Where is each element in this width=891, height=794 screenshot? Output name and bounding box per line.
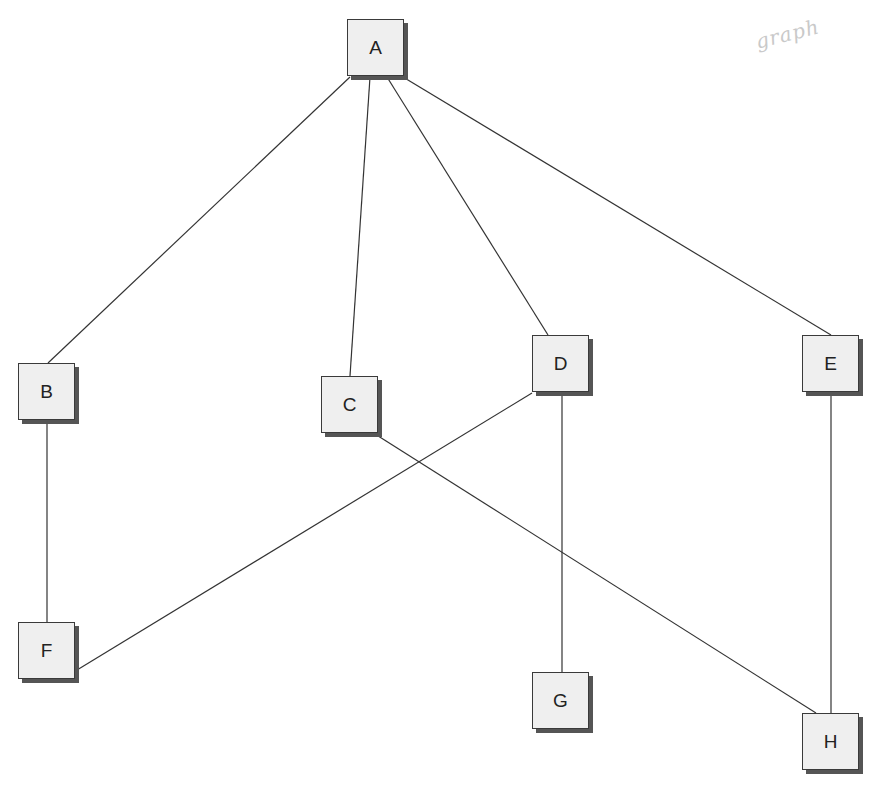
edge-d-f [77, 393, 532, 670]
edge-c-h [375, 434, 816, 713]
node-d[interactable]: D [532, 335, 589, 392]
node-g[interactable]: G [532, 672, 589, 729]
edge-a-b [48, 77, 350, 363]
node-h[interactable]: H [802, 713, 859, 770]
node-e[interactable]: E [802, 335, 859, 392]
edge-a-c [350, 77, 370, 376]
node-a[interactable]: A [347, 19, 404, 76]
node-b[interactable]: B [18, 363, 75, 420]
node-f[interactable]: F [18, 622, 75, 679]
edges-layer [0, 0, 891, 794]
node-c[interactable]: C [321, 376, 378, 433]
